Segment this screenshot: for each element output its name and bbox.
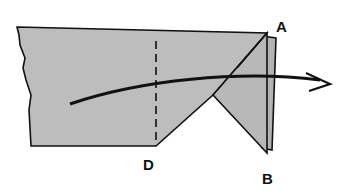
fold-diagram <box>0 0 349 194</box>
arrowhead-icon <box>306 73 330 91</box>
label-d: D <box>143 156 154 173</box>
label-a: A <box>276 18 287 35</box>
label-b: B <box>262 170 273 187</box>
